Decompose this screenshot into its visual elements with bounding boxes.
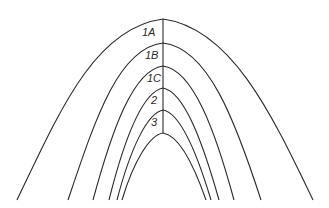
boundary-curve-inner — [122, 133, 206, 200]
boundary-curve-3 — [117, 110, 211, 200]
zone-label-2: 2 — [150, 94, 157, 106]
zone-label-1b: 1B — [145, 49, 158, 61]
zone-label-1c: 1C — [147, 72, 161, 84]
zone-diagram: 1A 1B 1C 2 3 — [0, 0, 329, 208]
boundary-curve-1a — [17, 19, 313, 200]
zone-label-3: 3 — [151, 116, 158, 128]
zone-label-1a: 1A — [142, 26, 155, 38]
